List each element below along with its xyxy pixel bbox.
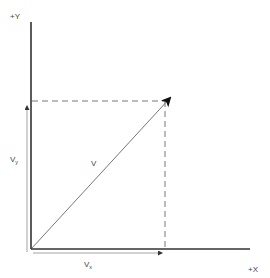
vx-label-sub: x: [89, 264, 92, 270]
vector-v: [32, 98, 170, 248]
vy-label: Vy: [10, 155, 18, 165]
vx-label: Vx: [84, 260, 92, 270]
y-axis-label: +Y: [10, 12, 21, 21]
vy-label-sub: y: [15, 159, 18, 165]
x-axis-label: +X: [248, 265, 259, 274]
vector-diagram: +Y +X V Vy Vx: [0, 0, 270, 278]
vector-v-label: V: [91, 159, 97, 168]
